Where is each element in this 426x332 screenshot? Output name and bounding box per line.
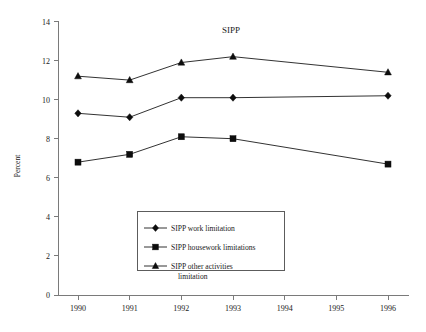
triangle-marker — [230, 53, 237, 59]
y-tick-label: 10 — [42, 96, 50, 105]
x-tick-label: 1990 — [70, 304, 86, 313]
x-tick-label: 1994 — [277, 304, 293, 313]
line-chart: SIPP Percent 02468101214 199019911992199… — [0, 0, 426, 332]
square-marker — [153, 244, 159, 250]
diamond-marker — [230, 94, 236, 101]
diamond-marker — [75, 110, 81, 117]
x-tick-label: 1993 — [225, 304, 241, 313]
square-marker — [75, 159, 81, 165]
x-tick-label: 1995 — [328, 304, 344, 313]
square-marker — [230, 136, 236, 142]
x-tick-label: 1992 — [173, 304, 189, 313]
diamond-marker — [385, 92, 391, 99]
series-line — [78, 57, 388, 80]
x-axis-ticks: 1990199119921993199419951996 — [70, 296, 396, 314]
diamond-marker — [178, 94, 184, 101]
series-group — [75, 53, 392, 83]
series-layer — [75, 53, 392, 167]
square-marker — [127, 151, 133, 157]
y-tick-label: 14 — [42, 18, 50, 27]
x-tick-label: 1996 — [380, 304, 396, 313]
y-tick-label: 12 — [42, 57, 50, 66]
triangle-marker — [75, 73, 82, 79]
diamond-marker — [126, 114, 132, 121]
y-axis-title: Percent — [13, 154, 22, 177]
legend-label: SIPP housework limitations — [171, 243, 256, 252]
y-tick-label: 4 — [46, 213, 50, 222]
legend-label-line2: limitation — [178, 272, 208, 281]
chart-container: SIPP Percent 02468101214 199019911992199… — [0, 0, 426, 332]
y-axis-ticks: 02468101214 — [42, 18, 59, 301]
y-tick-label: 0 — [46, 291, 50, 300]
chart-title: SIPP — [222, 25, 240, 35]
square-marker — [178, 134, 184, 140]
x-tick-label: 1991 — [122, 304, 138, 313]
square-marker — [385, 161, 391, 167]
legend-label: SIPP work limitation — [171, 224, 235, 233]
series-group — [75, 92, 391, 121]
y-tick-label: 2 — [46, 252, 50, 261]
y-tick-label: 8 — [46, 135, 50, 144]
series-group — [75, 134, 391, 167]
legend-label: SIPP other activities — [171, 262, 233, 271]
y-tick-label: 6 — [46, 174, 50, 183]
